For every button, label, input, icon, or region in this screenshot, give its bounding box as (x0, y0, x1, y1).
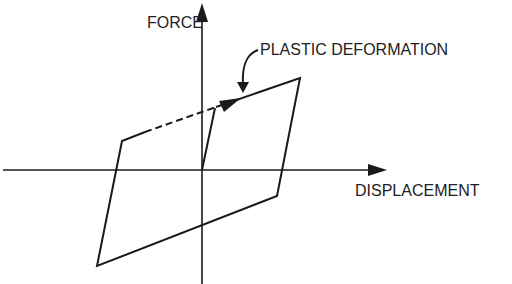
plastic-path-arrowhead (219, 98, 241, 112)
hysteresis-loop (97, 78, 300, 266)
annotation-leader (243, 50, 258, 84)
plastic-path-dashed (145, 107, 216, 132)
plastic-deformation-label: PLASTIC DEFORMATION (260, 41, 448, 58)
force-axis-label: FORCE (147, 14, 203, 31)
displacement-axis-arrowhead (368, 164, 387, 176)
hysteresis-diagram: FORCE PLASTIC DEFORMATION DISPLACEMENT (0, 0, 512, 284)
displacement-axis-label: DISPLACEMENT (355, 182, 480, 199)
initial-loading-line (202, 108, 215, 170)
annotation-leader-arrowhead (237, 82, 249, 93)
